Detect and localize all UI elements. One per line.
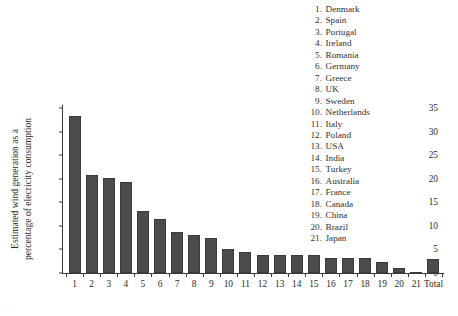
x-tick-mark [66,273,67,277]
x-tick-label: 20 [395,279,404,289]
x-axis-ticks: 123456789101112131415161718192021Total [62,108,444,273]
legend-item-label: Sweden [322,96,355,107]
x-tick-mark [203,273,204,277]
legend-item-label: UK [322,84,339,95]
x-tick-label: 18 [360,279,369,289]
x-tick-label: 11 [241,279,250,289]
x-tick-label: 5 [141,279,146,289]
x-tick-mark [237,273,238,277]
legend-item-number: 6. [307,61,322,72]
x-tick-mark [100,273,101,277]
x-tick-mark [117,273,118,277]
legend-item-label: Spain [322,15,346,26]
x-tick-label: Total [424,279,443,289]
legend-item: 5.Romania [307,50,455,61]
x-tick-label: 13 [275,279,284,289]
legend-item-label: Portugal [322,27,357,38]
x-tick-label: 21 [412,279,421,289]
wind-generation-bar-chart-figure: 1.Denmark2.Spain3.Portugal4.Ireland5.Rom… [0,0,458,316]
x-tick-mark [134,273,135,277]
x-tick-label: 19 [377,279,386,289]
x-tick-label: 1 [72,279,77,289]
legend-item-label: Ireland [322,38,352,49]
legend-item-number: 3. [307,27,322,38]
x-tick-label: 16 [326,279,335,289]
x-tick-label: 12 [258,279,267,289]
legend-item-number: 2. [307,15,322,26]
legend-item: 8.UK [307,84,455,95]
page-edge-artifact: ... [2,303,18,310]
x-tick-mark [220,273,221,277]
legend-item-label: Romania [322,50,359,61]
x-tick-mark [151,273,152,277]
x-tick-mark [83,273,84,277]
legend-item-number: 7. [307,73,322,84]
x-tick-label: 4 [123,279,128,289]
x-tick-mark [425,273,426,277]
legend-item-label: Denmark [322,4,360,15]
x-tick-mark [305,273,306,277]
x-tick-mark [288,273,289,277]
legend-item: 6.Germany [307,61,455,72]
legend-item: 2.Spain [307,15,455,26]
legend-item-number: 1. [307,4,322,15]
legend-item: 7.Greece [307,73,455,84]
x-tick-mark [169,273,170,277]
x-tick-mark [391,273,392,277]
x-tick-mark [339,273,340,277]
x-tick-mark [186,273,187,277]
x-tick-label: 2 [89,279,94,289]
x-tick-label: 9 [209,279,214,289]
x-tick-mark [254,273,255,277]
legend-item: 4.Ireland [307,38,455,49]
plot-area: 05101520253035 1234567891011121314151617… [62,108,444,273]
x-tick-mark [442,273,443,277]
x-axis-line [62,273,444,274]
legend-item-number: 8. [307,84,322,95]
x-tick-label: 17 [343,279,352,289]
x-tick-label: 8 [192,279,197,289]
legend-item: 3.Portugal [307,27,455,38]
x-tick-label: 10 [224,279,233,289]
x-tick-mark [357,273,358,277]
legend-item-number: 5. [307,50,322,61]
y-axis-title: Estimated wind generation as a percentag… [8,96,42,282]
x-tick-label: 14 [292,279,301,289]
legend-item-label: Germany [322,61,360,72]
legend-item-number: 9. [307,96,322,107]
x-tick-mark [408,273,409,277]
legend-item-label: Greece [322,73,352,84]
legend-item-number: 4. [307,38,322,49]
x-tick-label: 3 [106,279,111,289]
x-tick-mark [374,273,375,277]
x-tick-mark [271,273,272,277]
legend-item: 1.Denmark [307,4,455,15]
x-tick-label: 7 [175,279,180,289]
x-tick-label: 6 [158,279,163,289]
x-tick-label: 15 [309,279,318,289]
x-tick-mark [322,273,323,277]
